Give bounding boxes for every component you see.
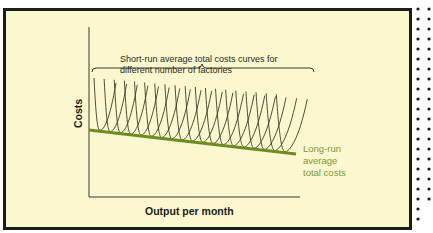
decorative-dots (415, 5, 433, 233)
srac-curve (195, 87, 222, 142)
y-axis-label: Costs (72, 99, 84, 128)
annotation-lratc: Long-run average total costs (303, 143, 346, 178)
x-axis-label: Output per month (145, 205, 234, 217)
srac-curve (155, 83, 180, 137)
srac-curve (94, 78, 116, 130)
annotation-srac: Short-run average total costs curves for… (120, 54, 280, 75)
cost-curves-diagram: Short-run average total costs curves for… (0, 0, 433, 233)
srac-curve (205, 88, 233, 143)
short-run-curves (94, 78, 307, 152)
